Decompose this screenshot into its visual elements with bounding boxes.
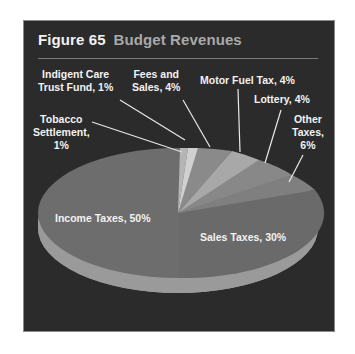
label-line: 6%: [292, 139, 324, 152]
label-other-taxes: Other Taxes, 6%: [292, 113, 324, 152]
label-line: Tobacco: [33, 113, 90, 126]
label-line: Indigent Care: [38, 68, 113, 81]
label-sales-taxes: Sales Taxes, 30%: [200, 231, 286, 244]
leader-tobacco: [92, 122, 182, 152]
label-line: Taxes,: [292, 126, 324, 139]
label-line: Settlement,: [33, 126, 90, 139]
label-line: 1%: [33, 139, 90, 152]
label-line: Fees and: [132, 68, 180, 81]
leader-fees: [183, 100, 210, 147]
label-indigent-care: Indigent Care Trust Fund, 1%: [38, 68, 113, 94]
pie-chart: [0, 0, 355, 354]
leader-motor: [238, 89, 240, 152]
label-income-taxes: Income Taxes, 50%: [55, 212, 151, 225]
label-line: Trust Fund, 1%: [38, 81, 113, 94]
label-tobacco-settlement: Tobacco Settlement, 1%: [33, 113, 90, 152]
label-lottery: Lottery, 4%: [254, 93, 310, 106]
label-line: Sales, 4%: [132, 81, 180, 94]
label-fees-and-sales: Fees and Sales, 4%: [132, 68, 180, 94]
leader-lottery: [265, 110, 281, 163]
label-motor-fuel-tax: Motor Fuel Tax, 4%: [200, 74, 295, 87]
label-line: Other: [292, 113, 324, 126]
